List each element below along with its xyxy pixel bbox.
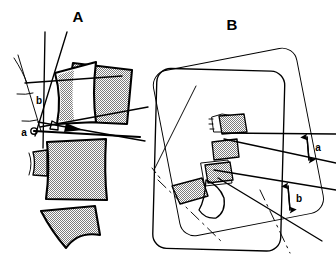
figure-container: A: [0, 0, 336, 271]
vertebra-b-top-shaded: [219, 114, 247, 134]
panel-b-label-a: a: [315, 142, 321, 153]
vertebra-middle-shaded: [46, 139, 107, 200]
panel-a-title: A: [73, 8, 84, 25]
anatomical-diagram-svg: A: [0, 0, 336, 271]
panel-b-title: B: [227, 16, 238, 33]
panel-b-label-b: b: [296, 193, 302, 204]
figure-background: [0, 0, 336, 271]
panel-a-label-b: b: [36, 95, 42, 106]
panel-a-label-a: a: [21, 127, 27, 138]
